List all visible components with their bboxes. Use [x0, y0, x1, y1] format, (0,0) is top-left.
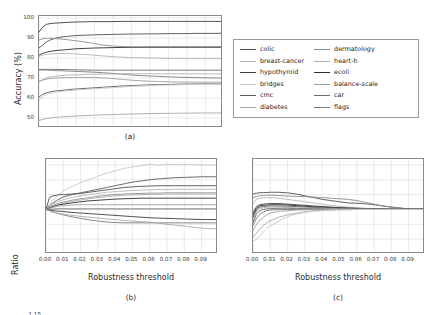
y-tick-label: 70 [8, 74, 34, 80]
legend-label: hypothyroid [260, 68, 298, 77]
series-line [39, 38, 222, 47]
panel-b-plot [45, 158, 217, 253]
legend-entry[interactable]: bridges [240, 80, 304, 89]
series-line [253, 209, 424, 230]
panel-c-lines [253, 159, 424, 253]
legend-entry[interactable]: cmc [240, 91, 304, 100]
legend-entry[interactable]: car [314, 91, 378, 100]
panel-c: 0.000.010.020.030.040.050.060.070.080.09… [220, 150, 427, 315]
x-tick-label: 0.09 [190, 256, 212, 262]
legend-entry[interactable]: ecoli [314, 68, 378, 77]
panel-a-caption: (a) [38, 132, 222, 141]
legend-label: ecoli [334, 68, 349, 77]
legend-label: diabetes [260, 103, 288, 112]
legend-entry[interactable]: colic [240, 45, 304, 54]
legend-label: heart-h [334, 57, 357, 66]
y-tick-label: 60 [8, 94, 34, 100]
series-line [253, 209, 424, 237]
figure-root: Accuracy (%) 5060708090100 (a) colicbrea… [0, 0, 427, 315]
panel-b-xlabel: Robustness threshold [45, 273, 217, 282]
legend-entry[interactable]: hypothyroid [240, 68, 304, 77]
legend-column-1: colicbreast-cancerhypothyroidbridgescmcd… [240, 45, 304, 112]
series-line [39, 69, 222, 70]
legend-label: car [334, 91, 344, 100]
series-line [46, 194, 217, 209]
legend-entry[interactable]: heart-h [314, 57, 378, 66]
panel-b-ylabel: Ratio [11, 254, 20, 275]
legend-entry[interactable]: breast-cancer [240, 57, 304, 66]
panel-a: Accuracy (%) 5060708090100 (a) [0, 0, 230, 150]
y-tick-label: 90 [8, 34, 34, 40]
legend-column-2: dermatologyheart-hecolibalance-scalecarf… [314, 45, 378, 112]
series-line [253, 208, 424, 222]
panel-c-xlabel: Robustness threshold [252, 273, 424, 282]
legend-label: colic [260, 45, 275, 54]
legend-line-icon [240, 72, 256, 73]
panel-a-lines [39, 16, 222, 127]
x-tick-label: 0.09 [397, 256, 419, 262]
series-line [39, 33, 222, 48]
panel-b: Ratio 0.850.900.951.001.051.101.15 0.000… [0, 150, 220, 315]
legend-line-icon [240, 107, 256, 108]
legend-entry[interactable]: balance-scale [314, 80, 378, 89]
legend-label: breast-cancer [260, 57, 304, 66]
legend-entry[interactable]: flags [314, 103, 378, 112]
series-line [39, 21, 222, 32]
legend-line-icon [314, 49, 330, 50]
panel-b-caption: (b) [45, 293, 217, 302]
legend-line-icon [314, 107, 330, 108]
legend-line-icon [314, 84, 330, 85]
legend-line-icon [314, 95, 330, 96]
legend-line-icon [240, 61, 256, 62]
panel-b-lines [46, 159, 217, 253]
legend-label: bridges [260, 80, 284, 89]
dataset-legend: colicbreast-cancerhypothyroidbridgescmcd… [233, 39, 419, 118]
y-tick-label: 80 [8, 54, 34, 60]
y-tick-label: 100 [8, 14, 34, 20]
legend-line-icon [240, 49, 256, 50]
panel-a-plot [38, 15, 222, 127]
series-line [39, 113, 222, 120]
series-line [46, 189, 217, 209]
legend-columns: colicbreast-cancerhypothyroidbridgescmcd… [240, 45, 412, 112]
series-line [253, 209, 424, 241]
y-tick-label: 1.15 [15, 311, 41, 315]
legend-label: dermatology [334, 45, 375, 54]
legend-line-icon [240, 84, 256, 85]
legend-label: flags [334, 103, 349, 112]
series-line [39, 84, 222, 101]
panel-c-plot [252, 158, 424, 253]
legend-line-icon [314, 72, 330, 73]
panel-c-caption: (c) [252, 293, 424, 302]
legend-entry[interactable]: diabetes [240, 103, 304, 112]
legend-entry[interactable]: dermatology [314, 45, 378, 54]
y-tick-label: 50 [8, 114, 34, 120]
legend-label: cmc [260, 91, 273, 100]
legend-line-icon [314, 61, 330, 62]
legend-label: balance-scale [334, 80, 378, 89]
legend-line-icon [240, 95, 256, 96]
series-line [46, 209, 217, 219]
